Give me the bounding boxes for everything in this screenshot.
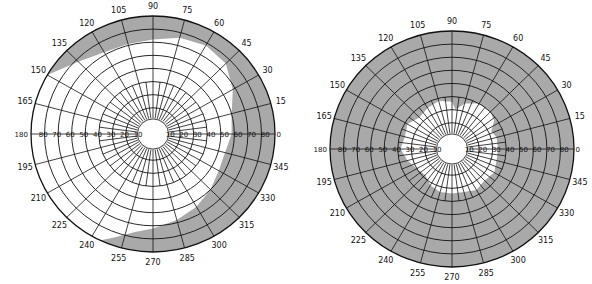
scale-label: 20 [419,146,428,154]
scale-label: 40 [392,146,401,154]
scale-label: 70 [247,131,256,139]
meridian-label: 225 [351,236,366,245]
scale-label: 80 [560,146,569,154]
meridian-label: 195 [316,178,331,187]
meridian-label: 75 [481,21,491,30]
scale-label: 50 [519,146,528,154]
scale-label: 70 [351,146,360,154]
meridian-label: 210 [31,194,46,203]
meridian-label: 105 [111,6,126,15]
scale-label: 50 [220,131,229,139]
meridian-label: 135 [351,54,366,63]
meridian-label: 120 [79,19,94,28]
meridian-label: 45 [242,39,252,48]
meridian-label: 195 [17,163,32,172]
scale-label: 30 [492,146,501,154]
scale-label: 10 [166,131,175,139]
meridian-label: 240 [79,241,94,250]
scale-label: 50 [79,131,88,139]
meridian-label: 165 [17,97,32,106]
meridian-label: 30 [263,66,273,75]
meridian-label: 15 [276,97,286,106]
scale-label: 80 [338,146,347,154]
meridian-label: 105 [410,21,425,30]
meridian-label: 330 [260,194,275,203]
meridian-label: 150 [31,66,46,75]
scale-label: 40 [206,131,215,139]
scale-label: 20 [478,146,487,154]
meridian-label: 285 [479,269,494,278]
scale-label: 80 [39,131,48,139]
meridian-label: 90 [447,17,457,26]
right-field-chart: 1020304050607080018080706050403020101530… [314,17,588,282]
meridian-label: 300 [212,241,227,250]
scale-label: 60 [234,131,243,139]
scale-label: 0 [276,131,280,139]
meridian-label: 210 [330,209,345,218]
meridian-label: 345 [273,163,288,172]
visual-field-figure: 1020304050607080018080706050403020101530… [0,0,592,284]
scale-label: 0 [575,146,579,154]
meridian-label: 60 [214,19,224,28]
scale-label: 70 [546,146,555,154]
meridian-label: 315 [239,221,254,230]
meridian-label: 90 [148,2,158,11]
scale-label: 80 [261,131,270,139]
meridian-label: 345 [572,178,587,187]
meridian-label: 30 [562,81,572,90]
meridian-label: 285 [180,254,195,263]
meridian-label: 255 [410,269,425,278]
meridian-label: 270 [444,273,459,282]
scale-label: 180 [15,131,28,139]
meridian-label: 300 [511,256,526,265]
scale-label: 10 [134,131,143,139]
scale-label: 60 [365,146,374,154]
meridian-label: 135 [52,39,67,48]
meridian-label: 240 [378,256,393,265]
meridian-label: 165 [316,112,331,121]
scale-label: 10 [433,146,442,154]
meridian-label: 45 [541,54,551,63]
scale-label: 20 [120,131,129,139]
scale-label: 20 [179,131,188,139]
scale-label: 40 [505,146,514,154]
meridian-label: 75 [182,6,192,15]
meridian-label: 255 [111,254,126,263]
scale-label: 10 [465,146,474,154]
left-field-chart: 1020304050607080018080706050403020101530… [15,2,289,267]
scale-label: 40 [93,131,102,139]
scale-label: 60 [533,146,542,154]
meridian-label: 120 [378,34,393,43]
scale-label: 30 [406,146,415,154]
meridian-label: 60 [513,34,523,43]
meridian-label: 150 [330,81,345,90]
scale-label: 60 [66,131,75,139]
meridian-label: 15 [575,112,585,121]
scale-label: 70 [52,131,61,139]
scale-label: 50 [378,146,387,154]
meridian-label: 315 [538,236,553,245]
scale-label: 30 [193,131,202,139]
meridian-label: 270 [145,258,160,267]
scale-label: 30 [107,131,116,139]
meridian-label: 225 [52,221,67,230]
scale-label: 180 [314,146,327,154]
meridian-label: 330 [559,209,574,218]
